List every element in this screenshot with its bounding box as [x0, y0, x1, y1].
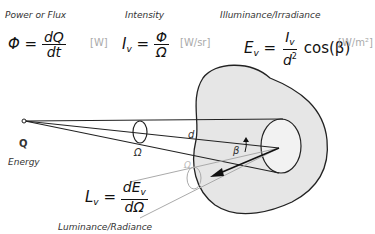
energy-label: Energy — [8, 157, 40, 167]
q-label: Q — [19, 138, 28, 149]
luminance-equation: Lv = dEvdΩ — [85, 180, 148, 214]
surface-ellipse — [261, 119, 301, 173]
omega-ellipse — [133, 121, 147, 143]
distance-label: d — [188, 129, 194, 140]
omega-small-label: Ω — [184, 160, 191, 170]
illuminance-equation: Ev = Ivd2 cos(β) — [244, 30, 350, 67]
beta-label: β — [233, 145, 239, 156]
source-point — [22, 119, 26, 123]
intensity-unit: [W/sr] — [180, 37, 210, 48]
luminance-label: Luminance/Radiance — [58, 222, 152, 232]
intensity-equation: Iv = ΦΩ — [122, 30, 169, 59]
surface-blob — [194, 65, 328, 213]
omega-label: Ω — [134, 147, 142, 158]
flux-equation: Φ = dQdt — [8, 30, 66, 59]
power-label: Power or Flux — [5, 10, 66, 20]
illuminance-unit: [W/m²] — [338, 37, 373, 48]
intensity-label: Intensity — [125, 10, 164, 20]
flux-unit: [W] — [90, 37, 108, 48]
illuminance-label: Illuminance/Irradiance — [220, 10, 321, 20]
